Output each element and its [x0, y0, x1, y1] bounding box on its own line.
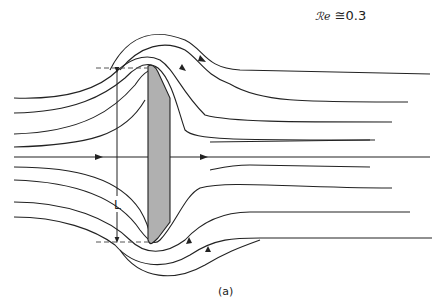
flow-arrow-center-right	[200, 154, 208, 160]
streamline-b2	[210, 165, 370, 170]
streamline-u2	[14, 64, 375, 140]
flow-arrow-center-left	[95, 154, 103, 160]
streamline-b6	[120, 240, 260, 276]
flow-arrow-top2	[179, 64, 186, 71]
flow-arrow-bottom2	[205, 246, 211, 252]
streamline-diagram	[0, 0, 446, 308]
plate-body	[148, 65, 170, 243]
streamline-b1	[14, 167, 152, 243]
streamline-b5	[14, 217, 432, 265]
streamline-b3	[14, 180, 392, 243]
